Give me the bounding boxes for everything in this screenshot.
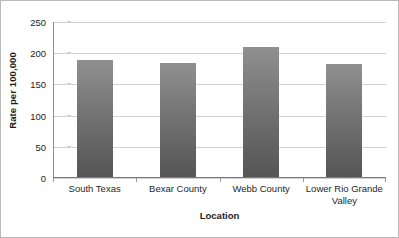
x-axis-tick-mark [220, 178, 221, 182]
y-axis-tick-label: 200 [30, 48, 46, 59]
bar [243, 47, 279, 177]
bar-chart-figure: Rate per 100,000 050100150200250 South T… [0, 0, 399, 238]
y-axis-tick-label: 50 [35, 141, 46, 152]
y-axis-title-text: Rate per 100,000 [7, 52, 18, 129]
bar [77, 60, 113, 177]
x-axis-tick-mark [385, 178, 386, 182]
bar [160, 63, 196, 177]
x-axis-category-label: South Texas [53, 183, 136, 195]
x-axis-tick-mark [303, 178, 304, 182]
x-axis-category-label: Lower Rio Grande Valley [303, 183, 386, 207]
bar [326, 64, 362, 177]
x-axis-tick-mark [136, 178, 137, 182]
x-axis-tick-mark [53, 178, 54, 182]
plot-area [53, 22, 386, 178]
bars-layer [53, 22, 386, 178]
y-axis-tick-label: 150 [30, 79, 46, 90]
y-axis-tick-label: 100 [30, 110, 46, 121]
x-axis-category-label: Bexar County [136, 183, 219, 195]
y-axis-tick-label: 0 [41, 173, 46, 184]
y-axis-tick-label: 250 [30, 17, 46, 28]
y-axis-tick-labels: 050100150200250 [19, 1, 49, 201]
x-axis-category-label: Webb County [220, 183, 303, 195]
x-axis-title: Location [53, 210, 386, 221]
